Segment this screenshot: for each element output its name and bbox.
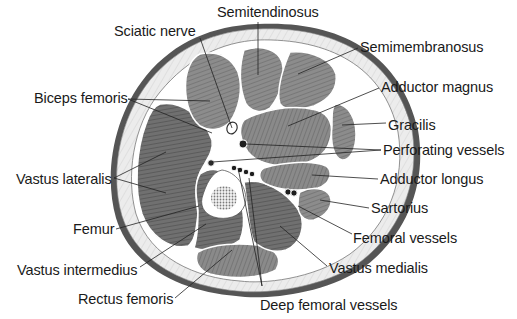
label-sciatic-nerve: Sciatic nerve <box>114 24 196 39</box>
perforating-vessel-1 <box>239 140 247 148</box>
thigh-cross-section-diagram: Semitendinosus Sciatic nerve Semimembran… <box>0 0 517 319</box>
label-vastus-medialis: Vastus medialis <box>329 261 428 276</box>
label-vastus-lateralis: Vastus lateralis <box>16 172 112 187</box>
perforating-vessel-2 <box>208 160 215 167</box>
adductor-magnus-muscle <box>241 108 332 166</box>
deep-femoral-vessel-4 <box>249 171 255 177</box>
label-gracilis: Gracilis <box>388 118 436 133</box>
label-biceps-femoris: Biceps femoris <box>34 91 128 106</box>
biceps-femoris-muscle <box>186 53 241 130</box>
label-rectus-femoris: Rectus femoris <box>78 292 173 307</box>
deep-femoral-vessel-3 <box>243 169 249 175</box>
label-femoral-vessels: Femoral vessels <box>353 231 457 246</box>
label-semitendinosus: Semitendinosus <box>217 5 319 20</box>
label-perforating-vessels: Perforating vessels <box>383 143 504 158</box>
label-semimembranosus: Semimembranosus <box>360 40 483 55</box>
label-deep-femoral-vessels: Deep femoral vessels <box>260 298 397 313</box>
femoral-vessel-2 <box>291 190 297 196</box>
label-sartorius: Sartorius <box>371 201 428 216</box>
label-vastus-intermedius: Vastus intermedius <box>17 263 137 278</box>
label-femur: Femur <box>73 222 114 237</box>
femoral-vessel-1 <box>285 189 291 195</box>
label-adductor-magnus: Adductor magnus <box>381 80 493 95</box>
adductor-longus-muscle <box>260 162 330 190</box>
deep-femoral-vessel-1 <box>231 165 237 171</box>
label-adductor-longus: Adductor longus <box>380 172 483 187</box>
